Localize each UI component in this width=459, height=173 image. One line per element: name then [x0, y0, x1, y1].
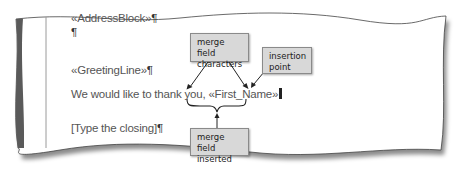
closing-line: [Type the closing]¶: [71, 122, 163, 134]
paragraph-mark-icon: ¶: [151, 12, 157, 24]
greeting-line-field: «GreetingLine»: [71, 64, 147, 76]
callout-merge-field-characters: merge field characters: [190, 33, 249, 62]
callout-insertion-point: insertion point: [262, 47, 312, 74]
greeting-line: «GreetingLine»¶: [71, 64, 153, 76]
closing-placeholder[interactable]: [Type the closing]: [71, 122, 157, 134]
paragraph-mark-icon: ¶: [71, 26, 77, 38]
empty-paragraph-line: ¶: [71, 26, 77, 38]
address-block-line: «AddressBlock»¶: [71, 12, 157, 24]
address-block-field: «AddressBlock»: [71, 12, 151, 24]
insertion-point-cursor: [279, 88, 282, 99]
paragraph-mark-icon: ¶: [147, 64, 153, 76]
callout-merge-field-inserted: merge field inserted: [190, 128, 249, 156]
body-text-line[interactable]: We would like to thank you, «First_Name»: [71, 88, 282, 100]
body-text: We would like to thank you,: [71, 88, 208, 100]
first-name-merge-field[interactable]: «First_Name»: [208, 88, 278, 100]
paragraph-mark-icon: ¶: [157, 122, 163, 134]
